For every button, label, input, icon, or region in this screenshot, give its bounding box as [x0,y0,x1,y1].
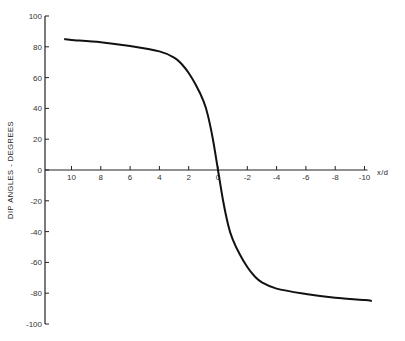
y-tick-label: 80 [33,43,42,52]
y-tick-label: 60 [33,74,42,83]
x-tick-label: 6 [128,173,133,182]
x-tick-label: -4 [273,173,281,182]
x-tick-label: 4 [157,173,162,182]
y-tick-label: 0 [38,166,43,175]
y-axis-label: DIP ANGLES - DEGREES [6,121,15,219]
dip-angle-chart: 100806040200-20-40-60-80-100 1086420-2-4… [0,0,405,341]
y-tick-label: 20 [33,135,42,144]
y-tick-label: -40 [30,228,42,237]
x-tick-label: 10 [67,173,76,182]
x-tick-label: -8 [332,173,340,182]
y-tick-label: -100 [26,320,43,329]
y-tick-label: -80 [30,289,42,298]
y-tick-label: 100 [29,12,43,21]
x-tick-label: -6 [302,173,310,182]
y-tick-label: -60 [30,258,42,267]
x-axis-label: x/d [377,168,389,177]
y-tick-label: 40 [33,104,42,113]
x-tick-label: -2 [244,173,252,182]
y-tick-label: -20 [30,197,42,206]
x-tick-label: -10 [359,173,371,182]
x-tick-label: 2 [186,173,191,182]
x-axis: 1086420-2-4-6-8-10 [45,166,371,182]
x-tick-label: 8 [99,173,104,182]
